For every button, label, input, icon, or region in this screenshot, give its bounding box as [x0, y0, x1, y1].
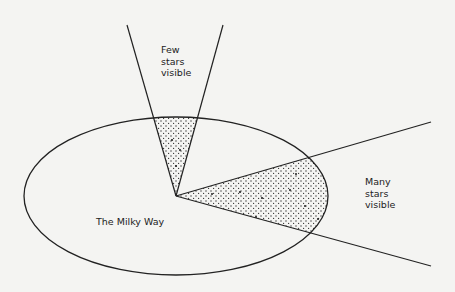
milky-way-diagram — [0, 0, 455, 292]
galaxy-label: The Milky Way — [96, 216, 164, 228]
few-stars-line-2: stars — [161, 56, 191, 68]
few-stars-line-1: Few — [161, 44, 191, 56]
few-stars-label: Few stars visible — [161, 44, 191, 79]
few-stars-line-3: visible — [161, 67, 191, 79]
many-stars-line-3: visible — [365, 199, 395, 211]
many-stars-line-2: stars — [365, 188, 395, 200]
many-stars-line-1: Many — [365, 176, 395, 188]
many-stars-label: Many stars visible — [365, 176, 395, 211]
